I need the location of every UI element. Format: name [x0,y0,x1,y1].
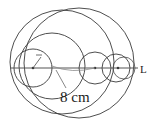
center-dot-right [117,67,120,70]
geometry-figure-container: 8 cm L [0,0,149,126]
dimension-leader-8cm [56,70,66,88]
dimension-label-8cm: 8 cm [60,89,90,105]
point-label-L: L [140,63,147,75]
radius-tick-line [33,57,41,68]
geometry-figure-svg: 8 cm L [0,0,149,126]
